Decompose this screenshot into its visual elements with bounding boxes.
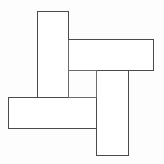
canvas-background [0, 0, 164, 164]
interlocking-bars-figure [0, 0, 164, 164]
figure-canvas [0, 0, 164, 164]
bar-bottom-left-horizontal [9, 98, 97, 129]
bar-bottom-right-vertical [97, 71, 129, 156]
bar-top-right-horizontal [69, 40, 154, 71]
bar-top-left-vertical [38, 12, 69, 98]
